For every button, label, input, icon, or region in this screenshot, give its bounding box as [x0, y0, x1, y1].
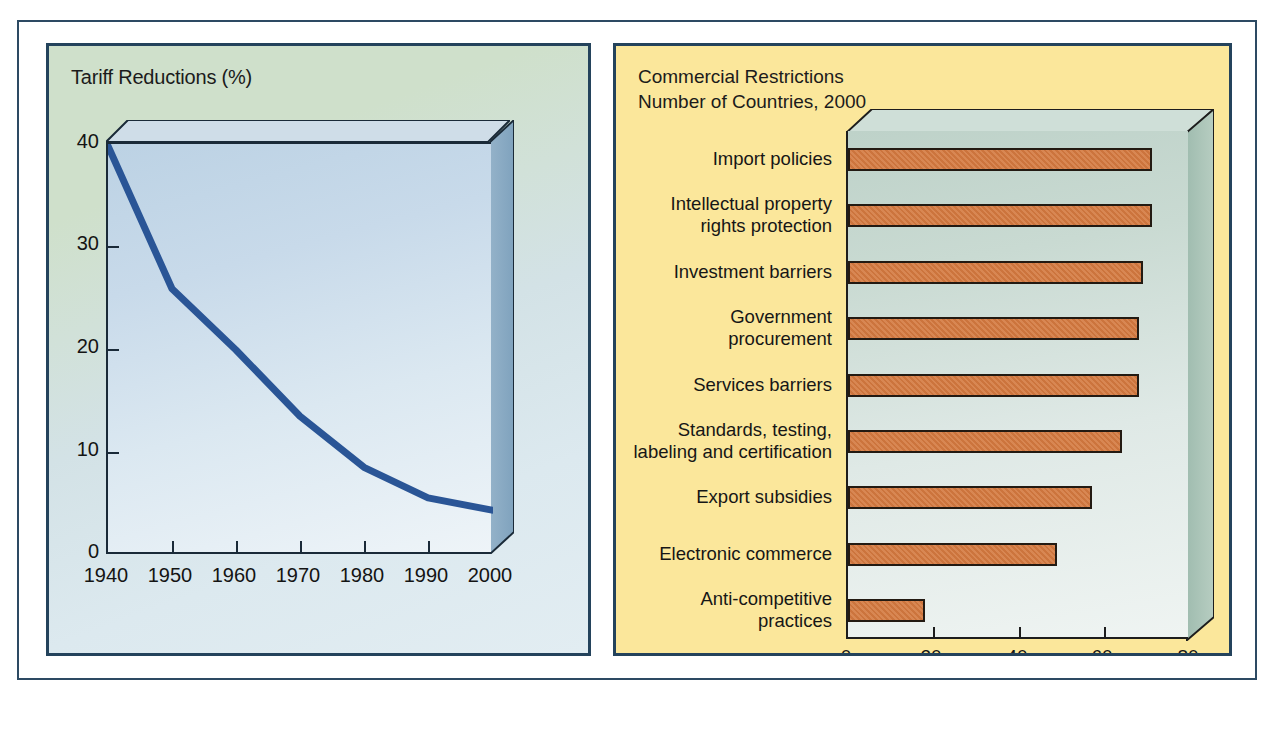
figure-root: Tariff Reductions (%)	[0, 0, 1273, 734]
y-axis-label-40: 40	[55, 130, 99, 153]
y-axis-label-0: 0	[55, 540, 99, 563]
bar-x-axis-label-60: 60	[1077, 646, 1127, 656]
line-chart-panel: Tariff Reductions (%)	[46, 43, 591, 656]
bar-label-4: Services barriers	[613, 374, 832, 396]
tariff-reduction-line	[108, 144, 493, 556]
bar-8	[848, 599, 925, 622]
y-axis-label-30: 30	[55, 232, 99, 255]
line-chart-3d-right-face	[490, 120, 514, 554]
bar-x-tick-40	[1019, 627, 1021, 637]
bar-x-axis-label-0: 0	[821, 646, 871, 656]
bar-label-2: Investment barriers	[613, 261, 832, 283]
line-chart-title: Tariff Reductions (%)	[71, 66, 252, 89]
bar-chart-plot-area	[846, 131, 1188, 639]
bar-label-6: Export subsidies	[613, 486, 832, 508]
bar-x-axis-label-80: 80	[1163, 646, 1213, 656]
bar-chart-title: Commercial Restrictions Number of Countr…	[638, 64, 866, 114]
bar-7	[848, 543, 1057, 566]
line-chart-3d-top-face	[106, 120, 510, 142]
x-axis-label-1970: 1970	[268, 564, 328, 587]
bar-4	[848, 374, 1139, 397]
bar-5	[848, 430, 1122, 453]
bar-1	[848, 204, 1152, 227]
bar-6	[848, 486, 1092, 509]
bar-3	[848, 317, 1139, 340]
x-axis-label-2000: 2000	[460, 564, 520, 587]
bar-x-tick-60	[1104, 627, 1106, 637]
x-axis-label-1960: 1960	[204, 564, 264, 587]
x-axis-label-1980: 1980	[332, 564, 392, 587]
bar-label-0: Import policies	[613, 148, 832, 170]
y-axis-label-20: 20	[55, 335, 99, 358]
line-chart-plot-area	[106, 142, 491, 554]
bar-x-axis-label-20: 20	[906, 646, 956, 656]
bar-chart-3d-right-face	[1186, 109, 1214, 641]
bar-label-3: Government procurement	[613, 306, 832, 350]
bar-0	[848, 148, 1152, 171]
bar-label-1: Intellectual property rights protection	[613, 193, 832, 237]
bar-label-8: Anti-competitive practices	[613, 588, 832, 632]
bar-chart-3d-top-face	[846, 109, 1214, 133]
x-axis-label-1940: 1940	[76, 564, 136, 587]
x-axis-label-1950: 1950	[140, 564, 200, 587]
bar-chart-panel: Commercial Restrictions Number of Countr…	[613, 43, 1232, 656]
bar-2	[848, 261, 1143, 284]
bar-x-axis-label-40: 40	[992, 646, 1042, 656]
x-axis-label-1990: 1990	[396, 564, 456, 587]
y-axis-label-10: 10	[55, 438, 99, 461]
bar-label-5: Standards, testing, labeling and certifi…	[613, 419, 832, 463]
bar-x-tick-20	[933, 627, 935, 637]
bar-label-7: Electronic commerce	[613, 543, 832, 565]
